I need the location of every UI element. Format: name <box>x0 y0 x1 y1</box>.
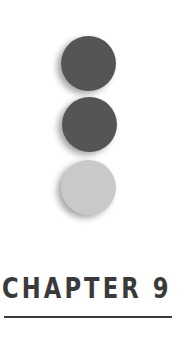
chapter-heading: CHAPTER 9 <box>2 271 141 305</box>
light-circle-bottom <box>61 160 116 215</box>
dark-circle-middle <box>62 97 117 152</box>
heading-underline-divider <box>4 316 172 318</box>
dark-circle-top <box>61 36 116 91</box>
